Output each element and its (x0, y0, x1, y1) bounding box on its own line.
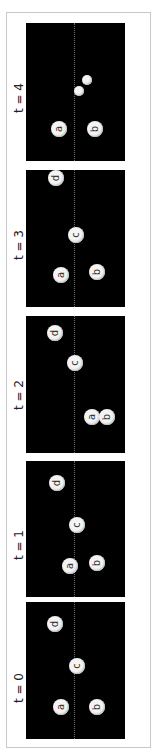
ball-a: a (62, 558, 78, 574)
time-label-t4: t = 4 (8, 78, 30, 118)
ball-b: b (89, 699, 105, 715)
ball-a: a (53, 267, 69, 283)
ball-label: c (72, 522, 82, 528)
ball-label: d (52, 480, 62, 486)
ball-small1 (74, 86, 84, 96)
ball-label: c (72, 663, 82, 669)
ball-label: c (70, 360, 80, 366)
ball-label: b (92, 269, 102, 275)
ball-label: b (102, 414, 112, 420)
ball-a: a (53, 699, 69, 715)
ball-label: c (71, 232, 81, 238)
ball-label: a (56, 272, 66, 278)
ball-c: c (69, 517, 85, 533)
panel-t4: ab (26, 23, 125, 161)
ball-d: d (47, 616, 63, 632)
ball-a: a (51, 121, 67, 137)
ball-b: b (87, 121, 103, 137)
panel-t3: dcab (26, 170, 125, 307)
panel-t1: dcab (26, 461, 125, 597)
ball-small2 (82, 75, 92, 85)
ball-b: b (89, 264, 105, 280)
ball-c: c (69, 658, 85, 674)
ball-a: a (84, 409, 100, 425)
ball-label: a (87, 414, 97, 420)
ball-label: a (54, 126, 64, 132)
center-axis-line (74, 316, 75, 453)
ball-label: d (51, 175, 61, 181)
ball-label: a (65, 563, 75, 569)
time-label-t3: t = 3 (8, 225, 30, 265)
ball-d: d (48, 170, 64, 186)
time-label-t2: t = 2 (8, 375, 30, 415)
ball-label: d (50, 330, 60, 336)
ball-b: b (99, 409, 115, 425)
panel-t0: dcab (26, 602, 125, 739)
ball-c: c (67, 355, 83, 371)
ball-b: b (89, 555, 105, 571)
ball-label: b (92, 704, 102, 710)
ball-d: d (49, 475, 65, 491)
ball-label: b (92, 560, 102, 566)
ball-c: c (68, 227, 84, 243)
time-label-t1: t = 1 (8, 525, 30, 565)
ball-label: b (90, 126, 100, 132)
ball-label: a (56, 704, 66, 710)
panel-t2: dcab (26, 316, 125, 453)
ball-label: d (50, 621, 60, 627)
ball-d: d (47, 325, 63, 341)
time-label-t0: t = 0 (8, 668, 30, 708)
